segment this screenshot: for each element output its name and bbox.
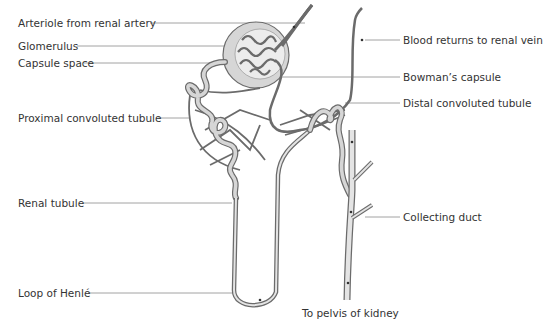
label-blood-returns: Blood returns to renal vein [403,34,543,46]
label-collecting-duct: Collecting duct [403,211,482,223]
label-bowmans-capsule: Bowman’s capsule [403,71,501,83]
loop-of-henle [234,130,310,305]
label-capsule-space: Capsule space [18,57,94,69]
label-arteriole: Arteriole from renal artery [18,17,156,29]
nephron-diagram [0,0,546,332]
label-distal-tubule: Distal convoluted tubule [403,97,531,109]
label-loop-of-henle: Loop of Henlé [18,287,90,299]
label-pelvis: To pelvis of kidney [302,307,399,319]
label-proximal-tubule: Proximal convoluted tubule [18,112,162,124]
label-renal-tubule: Renal tubule [18,197,84,209]
label-glomerulus: Glomerulus [18,40,78,52]
